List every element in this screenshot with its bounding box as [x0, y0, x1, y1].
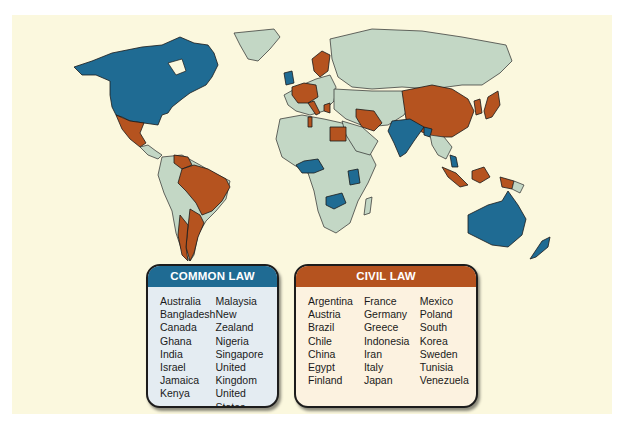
country: Mexico	[420, 295, 476, 308]
country: Austria	[308, 308, 364, 321]
country: Germany	[364, 308, 420, 321]
central-america	[140, 145, 162, 159]
country: Tunisia	[420, 361, 476, 374]
indonesia-east	[472, 167, 490, 183]
country: Poland	[420, 308, 476, 321]
country: Kenya	[160, 387, 215, 400]
madagascar	[364, 197, 372, 215]
north-america	[74, 37, 218, 125]
civil-law-col-1: Argentina Austria Brazil Chile China Egy…	[308, 295, 364, 387]
country: France	[364, 295, 420, 308]
common-law-legend: COMMON LAW Australia Bangladesh Canada G…	[146, 264, 279, 408]
country: Argentina	[308, 295, 364, 308]
russia	[330, 29, 512, 89]
civil-law-title: CIVIL LAW	[296, 266, 476, 287]
tunisia	[308, 117, 312, 127]
country: Italy	[364, 361, 420, 374]
egypt	[330, 127, 346, 141]
scandinavia	[312, 51, 330, 77]
country: Greece	[364, 321, 420, 334]
country: Venezuela	[420, 374, 476, 387]
country: Brazil	[308, 321, 364, 334]
common-law-title: COMMON LAW	[148, 266, 277, 287]
indonesia-sumatra	[442, 167, 468, 187]
civil-law-col-2: France Germany Greece Indonesia Iran Ita…	[364, 295, 420, 387]
greenland	[234, 29, 280, 61]
country: Singapore	[215, 348, 277, 361]
country: United Kingdom	[215, 361, 277, 387]
japan	[484, 91, 500, 119]
greece	[324, 103, 330, 113]
common-law-col-1: Australia Bangladesh Canada Ghana India …	[160, 295, 215, 408]
country: Sweden	[420, 348, 476, 361]
country: Finland	[308, 374, 364, 387]
united-kingdom	[284, 71, 294, 85]
country: Ghana	[160, 335, 215, 348]
malaysia	[450, 155, 458, 167]
map-panel: COMMON LAW Australia Bangladesh Canada G…	[12, 15, 612, 414]
country: New Zealand	[215, 308, 277, 334]
australia	[468, 191, 526, 247]
country: South Korea	[420, 321, 476, 347]
country: Jamaica	[160, 374, 215, 387]
country: Malaysia	[215, 295, 277, 308]
india	[388, 119, 424, 157]
country: Chile	[308, 335, 364, 348]
country: Israel	[160, 361, 215, 374]
country: Canada	[160, 321, 215, 334]
country: China	[308, 348, 364, 361]
country: Nigeria	[215, 335, 277, 348]
kenya	[348, 169, 360, 185]
common-law-col-2: Malaysia New Zealand Nigeria Singapore U…	[215, 295, 277, 408]
country: Indonesia	[364, 335, 420, 348]
country: Japan	[364, 374, 420, 387]
country: Egypt	[308, 361, 364, 374]
civil-law-col-3: Mexico Poland South Korea Sweden Tunisia…	[420, 295, 476, 387]
world-map	[12, 15, 612, 275]
country: Iran	[364, 348, 420, 361]
common-law-list: Australia Bangladesh Canada Ghana India …	[148, 287, 277, 408]
country: Australia	[160, 295, 215, 308]
papua	[500, 177, 514, 189]
country: India	[160, 348, 215, 361]
new-zealand	[530, 237, 550, 259]
country: Bangladesh	[160, 308, 215, 321]
png	[512, 181, 524, 193]
civil-law-list: Argentina Austria Brazil Chile China Egy…	[296, 287, 476, 387]
southeast-asia	[430, 135, 452, 159]
country: United States	[215, 387, 277, 408]
civil-law-legend: CIVIL LAW Argentina Austria Brazil Chile…	[294, 264, 478, 408]
korea	[474, 99, 482, 115]
